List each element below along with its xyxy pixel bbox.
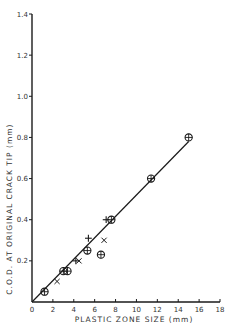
y-tick-label: 0.4 — [17, 216, 29, 224]
fit-line — [32, 142, 189, 302]
x-tick-label: 6 — [92, 306, 97, 314]
y-tick-label: 0.8 — [17, 134, 28, 142]
y-tick-label: 1.2 — [17, 52, 28, 60]
y-tick-label: 1.0 — [17, 93, 28, 101]
x-tick-label: 10 — [132, 306, 141, 314]
x-tick-label: 16 — [195, 306, 204, 314]
y-tick-label: 0.2 — [17, 257, 28, 265]
x-tick-label: 18 — [216, 306, 225, 314]
x-tick-label: 8 — [113, 306, 117, 314]
scatter-plot: 0.20.40.60.81.01.21.4024681012141618PLAS… — [0, 0, 226, 330]
y-axis-title: C.O.D. AT ORIGINAL CRACK TIP (mm) — [5, 124, 14, 295]
chart: 0.20.40.60.81.01.21.4024681012141618PLAS… — [0, 0, 226, 330]
y-tick-label: 0.6 — [17, 175, 29, 183]
x-axis-title: PLASTIC ZONE SIZE (mm) — [75, 315, 194, 324]
y-tick-label: 1.4 — [17, 11, 29, 19]
x-tick-label: 12 — [153, 306, 162, 314]
x-tick-label: 0 — [30, 306, 34, 314]
x-tick-label: 4 — [72, 306, 77, 314]
x-tick-label: 2 — [51, 306, 55, 314]
x-tick-label: 14 — [174, 306, 183, 314]
